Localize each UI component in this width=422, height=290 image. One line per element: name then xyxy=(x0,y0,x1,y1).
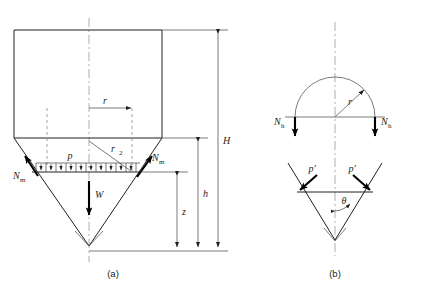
wall-pressure-right-label: p' xyxy=(347,163,356,174)
pressure-label-a: p xyxy=(67,150,73,161)
engineering-figure: r r 2 xyxy=(0,0,422,290)
r2-dimension-line xyxy=(89,141,131,171)
panel-b: r N h N h p' p' θ (b) xyxy=(273,22,392,279)
cylinder-outline xyxy=(14,30,162,138)
r2-label-base: r xyxy=(111,143,115,154)
hoop-force-left-label-sub: h xyxy=(281,122,285,130)
weight-label: W xyxy=(95,189,105,200)
radius-label: r xyxy=(103,95,107,106)
meridional-force-left-label-sub: m xyxy=(20,176,26,184)
H-label: H xyxy=(222,135,231,146)
theta-label: θ xyxy=(342,195,347,206)
h-label: h xyxy=(203,188,208,199)
meridional-force-right-label-sub: m xyxy=(159,158,165,166)
z-label: z xyxy=(181,206,186,217)
hoop-force-right-label-sub: h xyxy=(388,122,392,130)
wall-pressure-right-arrow xyxy=(353,175,370,190)
cone-wall-left-b xyxy=(288,163,335,240)
panel-b-caption: (b) xyxy=(329,268,341,279)
panel-a: r r 2 xyxy=(12,18,231,279)
meridional-force-right-arrow xyxy=(137,156,152,177)
panel-a-caption: (a) xyxy=(107,268,119,279)
r2-label-sub: 2 xyxy=(119,149,123,157)
figure-canvas: r r 2 xyxy=(0,0,422,290)
wall-pressure-left-arrow xyxy=(300,175,317,190)
wall-pressure-left-label: p' xyxy=(307,163,316,174)
dome-radius-label: r xyxy=(348,96,352,107)
